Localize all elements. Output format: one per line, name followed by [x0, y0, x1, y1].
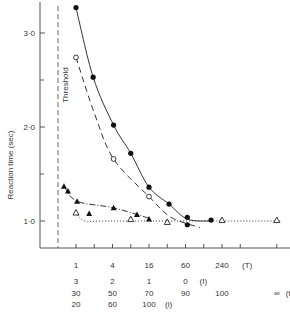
reaction-time-chart: 1·02·03·0Reaction time (sec)Threshold141… — [0, 0, 290, 314]
point-filled-circles — [73, 5, 78, 10]
x-tick-label-I: 3 — [74, 277, 79, 286]
point-open-circles — [111, 157, 116, 162]
point-filled-circles — [185, 222, 190, 227]
x-tick-label-t: 50 — [108, 289, 117, 298]
point-filled-circles — [128, 151, 133, 156]
x-tick-label-I: 1 — [147, 277, 152, 286]
curve-filled-circles — [76, 8, 211, 221]
x-tick-label-t: 70 — [145, 289, 154, 298]
x-tick-label-T: 60 — [181, 261, 190, 270]
x-scale-suffix-T: (T) — [242, 261, 253, 270]
point-open-triangles — [73, 210, 79, 216]
x-tick-label-i: 20 — [72, 300, 81, 309]
x-scale-suffix-I: (I) — [200, 277, 208, 286]
x-tick-label-t: 90 — [181, 289, 190, 298]
y-tick-label: 1·0 — [23, 217, 35, 226]
x-scale-suffix-t: (t) — [286, 289, 290, 298]
point-open-triangles — [274, 217, 280, 223]
point-filled-circles — [111, 123, 116, 128]
markers — [61, 5, 280, 227]
point-filled-triangles — [146, 216, 152, 222]
x-tick-label-i: 100 — [142, 300, 156, 309]
y-tick-label: 3·0 — [23, 29, 35, 38]
point-filled-circles — [208, 217, 213, 222]
x-tick-label-T: 4 — [110, 261, 115, 270]
point-filled-triangles — [61, 183, 67, 189]
x-scale-suffix-i: (i) — [165, 300, 172, 309]
x-tick-label-T: 240 — [215, 261, 229, 270]
x-tick-label-t: 30 — [72, 289, 81, 298]
point-filled-circles — [166, 201, 171, 206]
x-tick-label-T: 1 — [74, 261, 79, 270]
point-open-triangles — [128, 216, 134, 222]
point-filled-circles — [91, 75, 96, 80]
point-open-triangles — [164, 219, 170, 225]
point-filled-triangles — [86, 210, 92, 216]
curve-open-triangles — [76, 213, 280, 222]
curves — [64, 8, 280, 228]
axes — [40, 2, 290, 248]
point-filled-circles — [146, 185, 151, 190]
point-filled-triangles — [74, 198, 80, 204]
x-tick-label-T: 16 — [145, 261, 154, 270]
x-tick-label-t: 100 — [215, 289, 229, 298]
point-open-circles — [147, 194, 152, 199]
y-tick-label: 2·0 — [23, 123, 35, 132]
x-tick-label-t: ∞ — [274, 289, 280, 298]
x-tick-label-i: 60 — [108, 300, 117, 309]
x-tick-label-I: 0 — [183, 277, 188, 286]
y-axis-label: Reaction time (sec) — [6, 130, 15, 199]
labels: 1·02·03·0Reaction time (sec)Threshold141… — [6, 29, 290, 309]
point-filled-circles — [185, 215, 190, 220]
x-tick-label-I: 2 — [110, 277, 115, 286]
point-open-circles — [74, 55, 79, 60]
point-open-triangles — [219, 217, 225, 223]
threshold-label: Threshold — [61, 67, 70, 103]
